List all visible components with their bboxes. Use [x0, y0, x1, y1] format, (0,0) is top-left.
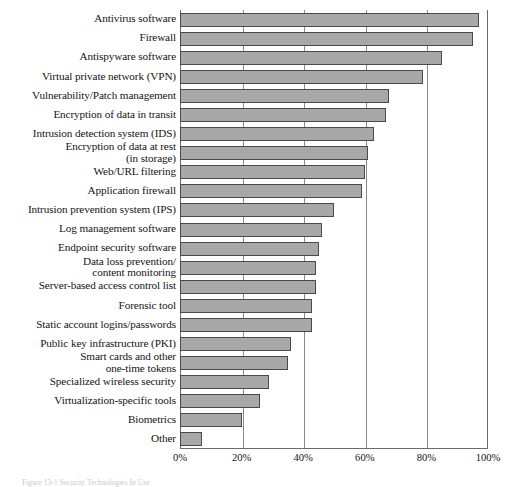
bar-row: [180, 70, 488, 84]
x-tick-100: 100%: [476, 452, 501, 463]
category-label: Biometrics: [0, 414, 176, 426]
bar-row: [180, 356, 488, 370]
bar-row: [180, 51, 488, 65]
bar-row: [180, 146, 488, 160]
category-axis-labels: Antivirus softwareFirewallAntispyware so…: [0, 10, 176, 449]
x-tick-20: 20%: [232, 452, 251, 463]
category-label: Web/URL filtering: [0, 166, 176, 178]
bar-row: [180, 432, 488, 446]
bar: [180, 337, 291, 351]
bar-row: [180, 184, 488, 198]
category-label: Firewall: [0, 32, 176, 44]
category-label: Encryption of data at rest (in storage): [0, 141, 176, 164]
bar: [180, 203, 334, 217]
bar-row: [180, 13, 488, 27]
bar: [180, 184, 362, 198]
figure-caption: Figure 13-1 Security Technologies In Use: [22, 478, 150, 487]
category-label: Static account logins/passwords: [0, 319, 176, 331]
bar-row: [180, 318, 488, 332]
bar-row: [180, 89, 488, 103]
category-label: Antivirus software: [0, 13, 176, 25]
bar: [180, 413, 242, 427]
category-label: Application firewall: [0, 185, 176, 197]
x-tick-80: 80%: [417, 452, 436, 463]
bar: [180, 432, 202, 446]
category-label: Virtualization-specific tools: [0, 395, 176, 407]
bar-row: [180, 223, 488, 237]
category-label: Data loss prevention/ content monitoring: [0, 256, 176, 279]
category-label: Public key infrastructure (PKI): [0, 338, 176, 350]
bar-row: [180, 413, 488, 427]
category-label: Virtual private network (VPN): [0, 71, 176, 83]
bar-row: [180, 394, 488, 408]
bar-row: [180, 127, 488, 141]
category-label: Antispyware software: [0, 51, 176, 63]
bar: [180, 51, 442, 65]
bar-row: [180, 165, 488, 179]
bar-row: [180, 375, 488, 389]
bar-row: [180, 280, 488, 294]
category-label: Smart cards and other one-time tokens: [0, 351, 176, 374]
bar: [180, 13, 479, 27]
category-label: Intrusion detection system (IDS): [0, 128, 176, 140]
bar: [180, 318, 312, 332]
category-label: Endpoint security software: [0, 242, 176, 254]
x-axis-tick-labels: 0%20%40%60%80%100%: [0, 452, 509, 468]
category-label: Intrusion prevention system (IPS): [0, 204, 176, 216]
bar-series: [180, 10, 488, 449]
bar: [180, 127, 374, 141]
bar: [180, 108, 386, 122]
bar: [180, 242, 319, 256]
bar: [180, 165, 365, 179]
bar-row: [180, 299, 488, 313]
category-label: Other: [0, 433, 176, 445]
bar: [180, 32, 473, 46]
bar: [180, 356, 288, 370]
category-label: Encryption of data in transit: [0, 109, 176, 121]
category-label: Vulnerability/Patch management: [0, 90, 176, 102]
bar-row: [180, 337, 488, 351]
bar-row: [180, 242, 488, 256]
bar: [180, 89, 389, 103]
category-label: Server-based access control list: [0, 280, 176, 292]
bar: [180, 299, 312, 313]
bar: [180, 261, 316, 275]
bar: [180, 70, 423, 84]
bar: [180, 394, 260, 408]
x-tick-60: 60%: [355, 452, 374, 463]
bar: [180, 146, 368, 160]
bar: [180, 280, 316, 294]
bar: [180, 223, 322, 237]
bar-row: [180, 108, 488, 122]
bar-chart: Antivirus softwareFirewallAntispyware so…: [0, 0, 509, 487]
bar-row: [180, 203, 488, 217]
bar: [180, 375, 269, 389]
category-label: Specialized wireless security: [0, 376, 176, 388]
x-tick-40: 40%: [293, 452, 312, 463]
bar-row: [180, 261, 488, 275]
category-label: Log management software: [0, 223, 176, 235]
category-label: Forensic tool: [0, 300, 176, 312]
x-tick-0: 0%: [173, 452, 187, 463]
bar-row: [180, 32, 488, 46]
